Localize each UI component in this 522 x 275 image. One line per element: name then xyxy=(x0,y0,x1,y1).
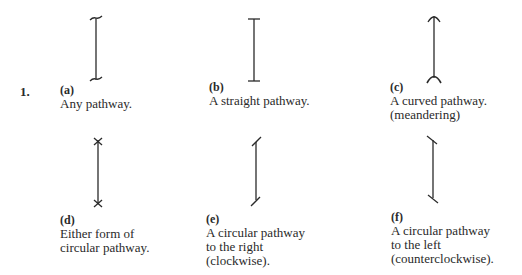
straight-pathway-icon xyxy=(244,16,264,84)
item-a-caption: (a) Any pathway. xyxy=(60,83,132,111)
circular-either-icon xyxy=(88,136,108,208)
figure-number: 1. xyxy=(20,84,30,100)
item-f-caption: (f) A circular pathway to the left (coun… xyxy=(391,210,494,266)
item-c-caption: (c) A curved pathway. (meandering) xyxy=(390,80,487,122)
any-pathway-icon xyxy=(86,14,106,84)
item-b-caption: (b) A straight pathway. xyxy=(209,80,310,108)
item-e-caption: (e) A circular pathway to the right (clo… xyxy=(206,212,305,268)
circular-left-icon xyxy=(423,134,443,206)
item-d-caption: (d) Either form of circular pathway. xyxy=(60,213,149,255)
curved-pathway-icon xyxy=(424,12,444,84)
circular-right-icon xyxy=(246,136,266,208)
